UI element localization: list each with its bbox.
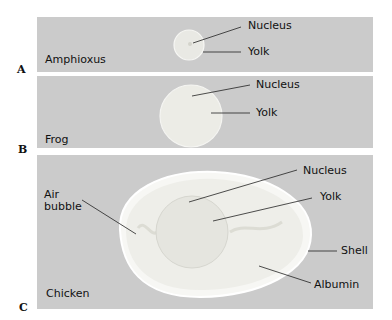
organism-label-a: Amphioxus [45, 53, 106, 66]
label-air-bubble-c: Air bubble [44, 189, 84, 213]
egg-illustrations [0, 0, 392, 320]
label-nucleus-c: Nucleus [303, 165, 347, 177]
organism-label-c: Chicken [46, 287, 89, 300]
panel-letter-b: B [18, 143, 27, 156]
organism-label-b: Frog [45, 133, 69, 146]
panel-letter-c: C [19, 301, 28, 314]
panel-letter-a: A [17, 63, 26, 76]
label-yolk-b: Yolk [256, 107, 277, 119]
label-yolk-a: Yolk [248, 46, 269, 58]
label-yolk-c: Yolk [320, 191, 341, 203]
label-nucleus-b: Nucleus [256, 79, 300, 91]
label-albumin-c: Albumin [314, 279, 359, 291]
label-nucleus-a: Nucleus [248, 20, 292, 32]
label-shell-c: Shell [341, 245, 368, 257]
